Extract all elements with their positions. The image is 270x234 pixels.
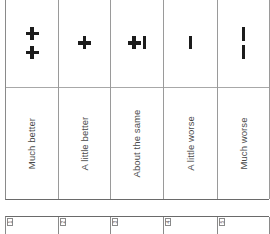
scale-column-5: Much worse: [218, 0, 270, 199]
box-number-tab: 4: [165, 218, 171, 226]
scale-label: A little better: [79, 117, 90, 171]
scale-label: Much worse: [238, 117, 249, 169]
label-cell: Much worse: [218, 88, 269, 199]
double-minus-icon: [242, 27, 246, 59]
plus-minus-icon: [128, 36, 147, 49]
symbol-cell: [6, 0, 58, 88]
scale-column-1: Much better: [6, 0, 59, 199]
symbol-cell: [59, 0, 110, 88]
scale-label: About the same: [132, 110, 143, 178]
answer-box-3[interactable]: 3: [111, 217, 164, 234]
plus-icon: [78, 36, 91, 49]
scale-column-4: A little worse: [164, 0, 218, 199]
scale-label: A little worse: [185, 116, 196, 171]
double-plus-icon: [26, 27, 39, 59]
answer-box-4[interactable]: 4: [164, 217, 218, 234]
label-cell: About the same: [111, 88, 163, 199]
box-number-tab: 3: [112, 218, 118, 226]
scale-label: Much better: [26, 118, 37, 169]
answer-box-2[interactable]: 2: [59, 217, 111, 234]
scale-column-3: About the same: [111, 0, 164, 199]
symbol-cell: [218, 0, 269, 88]
answer-box-5[interactable]: 5: [218, 217, 270, 234]
label-cell: Much better: [6, 88, 58, 199]
rating-scale-table: Much better A little better About the sa…: [5, 0, 269, 200]
symbol-cell: [111, 0, 163, 88]
answer-box-1[interactable]: 1: [6, 217, 59, 234]
answer-box-row: 1 2 3 4 5: [5, 216, 269, 234]
label-cell: A little worse: [164, 88, 217, 199]
label-cell: A little better: [59, 88, 110, 199]
minus-icon: [189, 36, 193, 49]
scale-column-2: A little better: [59, 0, 111, 199]
box-number-tab: 5: [219, 218, 225, 226]
box-number-tab: 1: [7, 218, 13, 226]
symbol-cell: [164, 0, 217, 88]
box-number-tab: 2: [60, 218, 66, 226]
